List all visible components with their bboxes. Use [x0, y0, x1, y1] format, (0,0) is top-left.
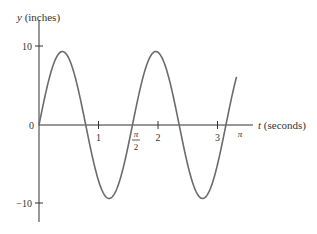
- svg-text:3: 3: [215, 132, 220, 143]
- svg-text:−10: −10: [16, 198, 32, 209]
- svg-text:1: 1: [96, 132, 101, 143]
- x-tick-2: 2: [156, 121, 161, 143]
- svg-text:2: 2: [156, 132, 161, 143]
- sine-chart: y (inches) t (seconds) 0 10 −10 1 2 3 π …: [0, 0, 317, 234]
- svg-text:π: π: [134, 129, 139, 139]
- svg-text:10: 10: [22, 41, 32, 52]
- x-axis-label: t (seconds): [258, 119, 306, 132]
- origin-label: 0: [29, 120, 34, 131]
- x-tick-3: 3: [215, 121, 220, 143]
- svg-text:2: 2: [134, 142, 139, 152]
- y-tick-10: 10: [22, 41, 43, 52]
- y-axis-label: y (inches): [16, 11, 60, 24]
- x-tick-pi: π: [238, 129, 243, 139]
- x-tick-1: 1: [96, 121, 101, 143]
- x-tick-pi-over-2: π 2: [132, 129, 140, 152]
